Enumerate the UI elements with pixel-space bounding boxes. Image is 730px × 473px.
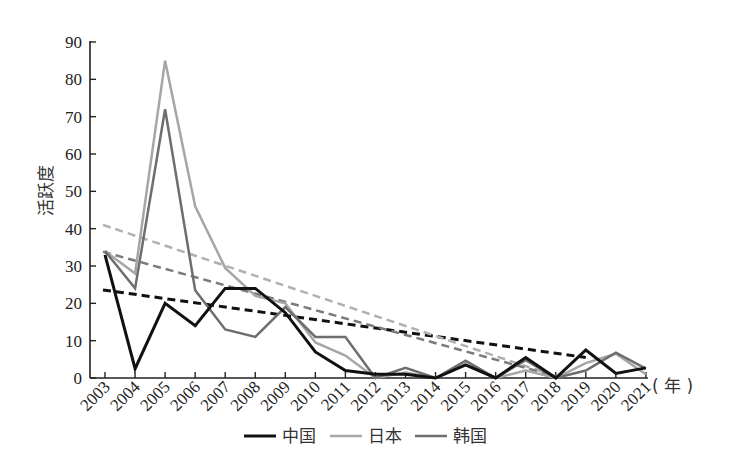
x-tick-label: 2010 [287,377,324,414]
x-tick-label: 2005 [136,377,173,414]
legend-item: 韩国 [415,426,487,446]
legend-label: 韩国 [453,426,487,446]
x-tick-label: 2015 [437,377,474,414]
x-tick-label: 2014 [407,377,445,415]
y-tick-label: 40 [65,220,82,239]
x-tick-label: 2013 [377,377,414,414]
y-tick-label: 70 [65,108,82,127]
x-tick-label: 2004 [106,377,144,415]
legend-label: 中国 [282,426,316,446]
x-tick-label: 2017 [497,377,535,415]
y-tick-label: 0 [74,369,83,388]
x-tick-label: 2016 [467,377,504,414]
x-tick-label: 2021 [617,377,654,414]
trendlines [103,225,586,376]
activity-line-chart: 0102030405060708090 20032004200520062007… [0,0,730,473]
y-axis-title: 活跃度 [36,165,56,216]
y-tick-label: 10 [65,332,82,351]
series-lines [105,61,646,378]
x-axis-unit: ( 年 ) [652,376,693,396]
x-tick-label: 2007 [197,377,235,415]
y-tick-label: 20 [65,294,82,313]
y-tick-label: 60 [65,145,82,164]
y-tick-label: 30 [65,257,82,276]
series-line-韩国 [105,109,646,378]
x-tick-label: 2009 [257,377,294,414]
x-tick-label: 2011 [317,377,354,414]
x-tick-label: 2018 [527,377,564,414]
legend-item: 中国 [244,426,316,446]
x-tick-label: 2019 [557,377,594,414]
legend-item: 日本 [330,426,402,446]
y-axis: 0102030405060708090 [65,33,96,388]
x-tick-label: 2012 [347,377,384,414]
legend: 中国日本韩国 [244,426,487,446]
series-line-日本 [105,61,646,378]
x-tick-label: 2008 [227,377,264,414]
x-axis: 2003200420052006200720082009201020112012… [76,372,654,415]
legend-label: 日本 [368,426,402,446]
trendline-中国 [103,290,586,358]
x-tick-label: 2006 [167,377,204,414]
trendline-韩国 [103,252,556,376]
y-tick-label: 80 [65,70,82,89]
y-tick-label: 50 [65,182,82,201]
y-tick-label: 90 [65,33,82,52]
x-tick-label: 2020 [587,377,624,414]
